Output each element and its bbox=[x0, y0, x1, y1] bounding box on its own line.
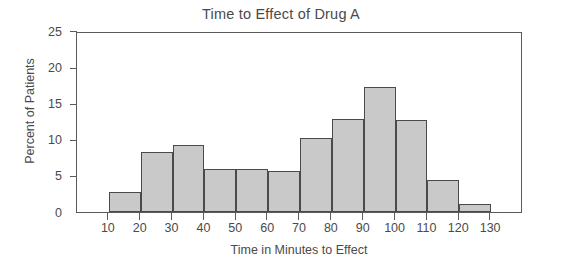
histogram-bar bbox=[204, 169, 236, 212]
histogram-bar bbox=[268, 171, 300, 212]
y-axis-tick-label: 5 bbox=[22, 170, 62, 183]
x-axis-tick bbox=[139, 213, 140, 220]
x-axis-tick bbox=[489, 213, 490, 220]
chart-title: Time to Effect of Drug A bbox=[0, 6, 562, 22]
histogram-bar bbox=[332, 119, 364, 212]
x-axis-tick bbox=[203, 213, 204, 220]
x-axis-tick bbox=[394, 213, 395, 220]
histogram-figure: Time to Effect of Drug A Percent of Pati… bbox=[0, 0, 562, 266]
histogram-bar bbox=[109, 192, 141, 212]
y-axis-tick-label: 20 bbox=[22, 62, 62, 75]
x-axis-title: Time in Minutes to Effect bbox=[76, 243, 522, 257]
y-axis-tick-label: 10 bbox=[22, 134, 62, 147]
histogram-bar bbox=[173, 145, 205, 212]
histogram-bar bbox=[364, 87, 396, 212]
x-axis-tick bbox=[266, 213, 267, 220]
x-axis-tick bbox=[362, 213, 363, 220]
histogram-bar bbox=[300, 138, 332, 212]
plot-area bbox=[76, 32, 522, 213]
x-axis-tick bbox=[330, 213, 331, 220]
bars-container bbox=[77, 33, 521, 212]
y-axis-tick-label: 25 bbox=[22, 26, 62, 39]
histogram-bar bbox=[141, 152, 173, 212]
histogram-bar bbox=[396, 120, 428, 212]
x-axis-tick bbox=[171, 213, 172, 220]
histogram-bar bbox=[427, 180, 459, 212]
x-axis-tick bbox=[426, 213, 427, 220]
x-axis-tick bbox=[235, 213, 236, 220]
y-axis-tick-label: 0 bbox=[22, 207, 62, 220]
x-axis-tick bbox=[458, 213, 459, 220]
histogram-bar bbox=[236, 169, 268, 212]
y-axis-tick-label: 15 bbox=[22, 98, 62, 111]
x-axis-tick bbox=[298, 213, 299, 220]
histogram-bar bbox=[459, 204, 491, 212]
x-axis-tick-label: 130 bbox=[470, 222, 510, 235]
x-axis-tick bbox=[107, 213, 108, 220]
